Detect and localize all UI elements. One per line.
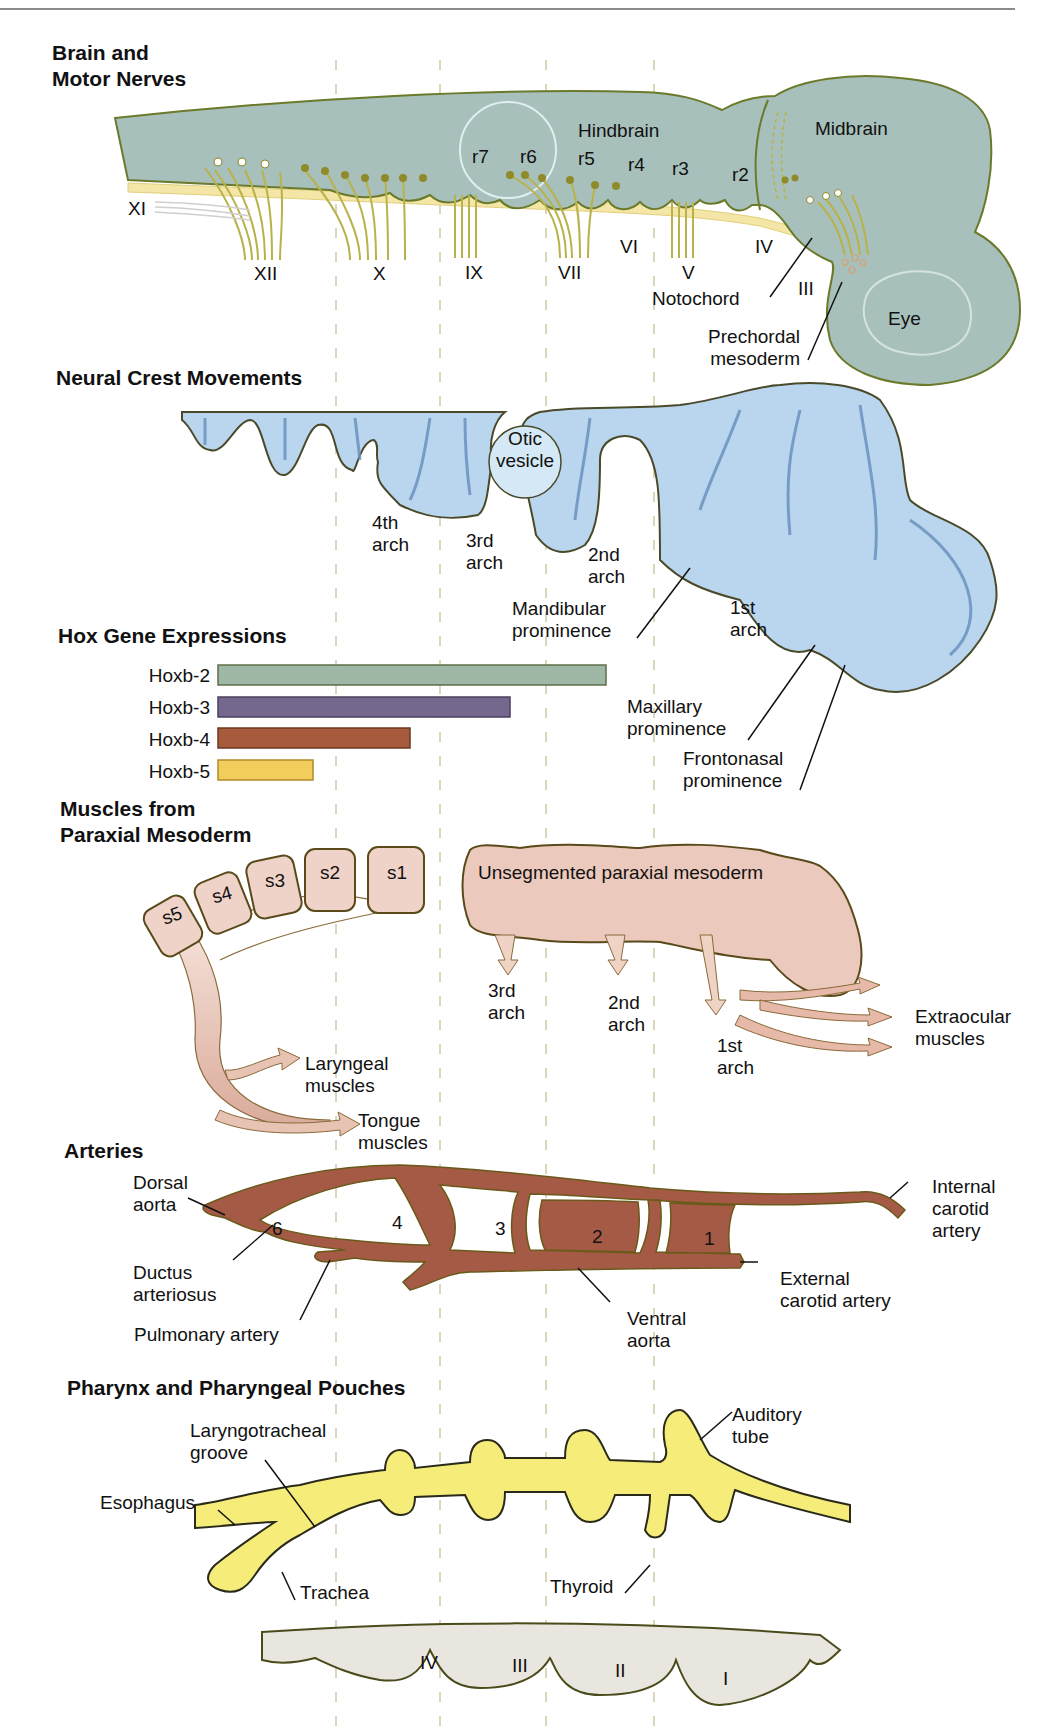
- label-hindbrain: Hindbrain: [578, 120, 659, 142]
- label-line: carotid: [932, 1198, 995, 1220]
- label-line: carotid artery: [780, 1290, 891, 1312]
- section-title-neural-crest: Neural Crest Movements: [56, 365, 302, 391]
- label-cleft-I: I: [723, 1668, 728, 1690]
- label-line: artery: [932, 1220, 995, 1242]
- hox-bar-b5: [218, 760, 313, 780]
- label-r2: r2: [732, 164, 749, 186]
- label-line: muscles: [915, 1028, 1011, 1050]
- label-line: Ventral: [627, 1308, 686, 1330]
- label-hoxb-2: Hoxb-2: [130, 665, 210, 687]
- label-trachea: Trachea: [300, 1582, 369, 1604]
- label-extraocular-muscles: Extraocular muscles: [915, 1006, 1011, 1050]
- label-s2: s2: [320, 862, 340, 884]
- label-ventral-aorta: Ventral aorta: [627, 1308, 686, 1352]
- label-line: Laryngotracheal: [190, 1420, 326, 1442]
- label-arch-2: 2: [592, 1226, 603, 1248]
- laryngeal-arrow: [225, 1048, 300, 1080]
- label-line: 2nd: [588, 544, 625, 566]
- label-laryngotracheal-groove: Laryngotracheal groove: [190, 1420, 326, 1464]
- label-eye: Eye: [888, 308, 921, 330]
- label-line: Frontonasal: [683, 748, 783, 770]
- label-cleft-II: II: [615, 1660, 626, 1682]
- label-line: 3rd: [488, 980, 525, 1002]
- label-line: 2nd: [608, 992, 645, 1014]
- label-line: 3rd: [466, 530, 503, 552]
- hox-bar-b3: [218, 697, 510, 717]
- label-line: External: [780, 1268, 891, 1290]
- label-line: 1st: [717, 1035, 754, 1057]
- label-m-arch2: 2nd arch: [608, 992, 645, 1036]
- label-nc-arch3: 3rd arch: [466, 530, 503, 574]
- label-r3: r3: [672, 158, 689, 180]
- label-esophagus: Esophagus: [100, 1492, 195, 1514]
- label-line: Ductus: [133, 1262, 216, 1284]
- title-line: Paraxial Mesoderm: [60, 822, 251, 848]
- label-nc-arch1: 1st arch: [730, 597, 767, 641]
- label-line: arch: [466, 552, 503, 574]
- label-line: Laryngeal: [305, 1053, 388, 1075]
- label-line: 1st: [730, 597, 767, 619]
- title-line: Brain and: [52, 40, 186, 66]
- section-title-arteries: Arteries: [64, 1138, 143, 1164]
- label-s1: s1: [387, 862, 407, 884]
- label-line: Mandibular: [512, 598, 611, 620]
- label-laryngeal-muscles: Laryngeal muscles: [305, 1053, 388, 1097]
- label-line: Tongue: [358, 1110, 428, 1132]
- label-auditory-tube: Auditory tube: [732, 1404, 802, 1448]
- label-line: arch: [730, 619, 767, 641]
- label-nerve-XII: XII: [254, 263, 277, 285]
- hox-bar-b2: [218, 665, 606, 685]
- hox-bar-b4: [218, 728, 410, 748]
- neural-crest-anterior: [520, 383, 997, 692]
- label-nerve-VI: VI: [620, 236, 638, 258]
- label-r4: r4: [628, 154, 645, 176]
- somites: [140, 847, 424, 960]
- label-arch-6: 6: [272, 1218, 283, 1240]
- neural-crest-posterior: [182, 412, 505, 518]
- label-line: arteriosus: [133, 1284, 216, 1306]
- label-line: arch: [372, 534, 409, 556]
- label-line: mesoderm: [690, 348, 800, 370]
- label-nerve-XI: XI: [128, 198, 146, 220]
- label-s3: s3: [265, 870, 285, 892]
- label-line: Dorsal: [133, 1172, 188, 1194]
- label-line: groove: [190, 1442, 326, 1464]
- label-internal-carotid: Internal carotid artery: [932, 1176, 995, 1242]
- somite-fan: [165, 920, 330, 1130]
- label-m-arch3: 3rd arch: [488, 980, 525, 1024]
- label-r5: r5: [578, 148, 595, 170]
- label-maxillary-prominence: Maxillary prominence: [627, 696, 726, 740]
- label-thyroid: Thyroid: [550, 1576, 613, 1598]
- label-prechordal-mesoderm: Prechordal mesoderm: [690, 326, 800, 370]
- label-cleft-IV: IV: [420, 1652, 438, 1674]
- section-title-muscles: Muscles from Paraxial Mesoderm: [60, 796, 251, 848]
- label-nerve-IX: IX: [465, 262, 483, 284]
- label-r6: r6: [520, 146, 537, 168]
- label-line: aorta: [133, 1194, 188, 1216]
- label-line: 4th: [372, 512, 409, 534]
- label-nc-arch4: 4th arch: [372, 512, 409, 556]
- label-notochord: Notochord: [652, 288, 740, 310]
- section-title-pharynx: Pharynx and Pharyngeal Pouches: [67, 1375, 405, 1401]
- section-title-brain: Brain and Motor Nerves: [52, 40, 186, 92]
- label-pulmonary-artery: Pulmonary artery: [134, 1324, 279, 1346]
- label-nerve-VII: VII: [558, 262, 581, 284]
- label-line: arch: [488, 1002, 525, 1024]
- title-line: Muscles from: [60, 796, 251, 822]
- label-line: prominence: [627, 718, 726, 740]
- section-title-hox: Hox Gene Expressions: [58, 623, 287, 649]
- label-line: prominence: [512, 620, 611, 642]
- label-arch-3: 3: [495, 1218, 506, 1240]
- pharyngeal-clefts: [262, 1623, 840, 1705]
- label-hoxb-5: Hoxb-5: [130, 761, 210, 783]
- label-line: muscles: [358, 1132, 428, 1154]
- label-line: arch: [717, 1057, 754, 1079]
- title-line: Motor Nerves: [52, 66, 186, 92]
- label-frontonasal-prominence: Frontonasal prominence: [683, 748, 783, 792]
- label-nerve-IV: IV: [755, 236, 773, 258]
- label-nerve-III: III: [798, 278, 814, 300]
- label-hoxb-3: Hoxb-3: [130, 697, 210, 719]
- label-line: Auditory: [732, 1404, 802, 1426]
- tongue-arrow: [215, 1110, 360, 1136]
- label-nerve-V: V: [682, 262, 695, 284]
